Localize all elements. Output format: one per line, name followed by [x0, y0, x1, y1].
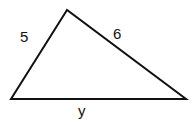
- side-label-right: 6: [113, 25, 121, 42]
- side-label-bottom: y: [78, 102, 86, 119]
- side-label-left: 5: [20, 28, 28, 45]
- triangle-diagram: 5 6 y: [0, 0, 194, 125]
- triangle-shape: [11, 10, 186, 99]
